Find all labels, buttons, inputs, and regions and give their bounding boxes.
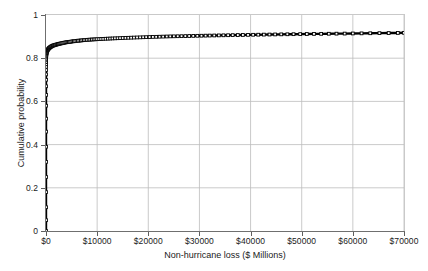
y-axis-line xyxy=(45,14,46,232)
chart-figure: $0$10000$20000$30000$40000$50000$60000$7… xyxy=(0,0,428,271)
y-tick-mark xyxy=(41,58,45,59)
data-series-curve xyxy=(46,15,404,231)
x-tick-label: $20000 xyxy=(134,236,163,246)
y-tick-mark xyxy=(41,101,45,102)
plot-border-top xyxy=(45,14,405,15)
y-tick-mark xyxy=(41,145,45,146)
y-tick-mark xyxy=(41,188,45,189)
x-tick-label: $10000 xyxy=(83,236,112,246)
x-tick-label: $0 xyxy=(41,236,51,246)
x-tick-label: $60000 xyxy=(338,236,367,246)
y-tick-label: 0 xyxy=(33,226,38,236)
y-tick-mark xyxy=(41,231,45,232)
x-tick-label: $30000 xyxy=(185,236,214,246)
x-tick-label: $70000 xyxy=(390,236,419,246)
x-axis-title: Non-hurricane loss ($ Millions) xyxy=(46,250,404,261)
x-tick-label: $40000 xyxy=(236,236,265,246)
y-axis-title: Cumulative probability xyxy=(14,15,28,231)
y-tick-label: 1 xyxy=(33,10,38,20)
plot-border-right xyxy=(404,14,405,232)
plot-area xyxy=(46,15,404,231)
x-axis-line xyxy=(45,231,405,232)
x-tick-label: $50000 xyxy=(287,236,316,246)
y-tick-mark xyxy=(41,15,45,16)
